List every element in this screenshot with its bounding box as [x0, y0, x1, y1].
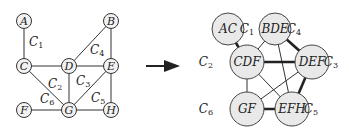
clique-node-label: BDE [260, 22, 288, 36]
node-H: H [104, 103, 119, 118]
node-label: D [64, 60, 74, 73]
node-label: G [65, 104, 74, 117]
clique-node-label: EFH [277, 102, 306, 116]
node-C: C [17, 59, 32, 74]
clique-node-label: DEF [298, 55, 326, 69]
node-label: B [106, 15, 115, 28]
clique-label-C3: C3 [76, 74, 90, 89]
node-label: E [106, 60, 115, 73]
clique-label-C2: C2 [199, 55, 213, 70]
clique-node-AC: ACC1 [212, 13, 254, 45]
clique-label-C6: C6 [40, 92, 54, 107]
clique-label-C1: C1 [240, 22, 254, 37]
clique-label-C5: C5 [304, 102, 318, 117]
clique-label-C4: C4 [287, 22, 301, 37]
node-label: C [20, 60, 29, 73]
clique-label-C1: C1 [29, 35, 43, 50]
clique-label-C4: C4 [90, 43, 104, 58]
node-D: D [62, 59, 77, 74]
clique-node-GF: GFC6 [199, 92, 264, 126]
node-label: F [19, 104, 28, 117]
node-B: B [104, 14, 119, 29]
clique-label-C6: C6 [199, 102, 213, 117]
node-G: G [62, 103, 77, 118]
node-label: H [105, 104, 116, 117]
clique-label-C3: C3 [324, 55, 338, 70]
clique-node-EFH: EFHC5 [275, 92, 318, 126]
clique-node-CDF: CDFC2 [199, 45, 264, 79]
node-A: A [17, 14, 32, 29]
clique-node-BDE: BDEC4 [259, 13, 301, 45]
clique-label-C2: C2 [48, 77, 62, 92]
clique-label-C5: C5 [91, 91, 105, 106]
clique-graph-diagram: ABCDEFGH C1C4C2C3C5C6 ACC1BDEC4CDFC2DEFC… [0, 0, 349, 131]
node-label: A [19, 15, 28, 28]
node-E: E [104, 59, 119, 74]
clique-node-label: GF [238, 102, 257, 116]
clique-node-label: CDF [233, 55, 261, 69]
clique-node-DEF: DEFC3 [295, 45, 338, 79]
node-F: F [17, 103, 32, 118]
clique-node-label: AC [218, 22, 237, 36]
